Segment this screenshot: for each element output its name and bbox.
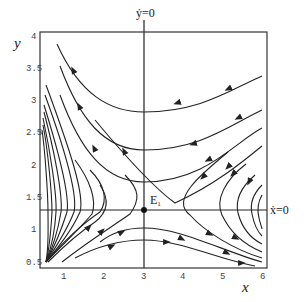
equilibrium-point — [141, 207, 147, 213]
y-axis-label: y — [12, 35, 21, 51]
svg-text:0.5: 0.5 — [26, 258, 42, 268]
y-dot-nullcline-label: ẏ=0 — [136, 6, 155, 20]
svg-text:2: 2 — [31, 161, 36, 171]
svg-text:3: 3 — [31, 96, 36, 106]
x-dot-nullcline-label: ẋ=0 — [270, 203, 289, 217]
svg-text:3.5: 3.5 — [26, 64, 42, 74]
x-axis-ticks: 1 2 3 4 5 6 — [61, 272, 265, 282]
equilibrium-label: E1 — [150, 193, 161, 208]
svg-text:1: 1 — [61, 272, 66, 282]
x-axis-label: x — [241, 279, 249, 295]
phase-portrait: 0.5 1 1.5 2 2.5 3 3.5 4 1 2 3 4 5 6 y x … — [0, 0, 306, 302]
svg-text:4: 4 — [180, 272, 185, 282]
svg-text:4: 4 — [31, 32, 36, 42]
svg-text:1: 1 — [31, 225, 36, 235]
svg-text:3: 3 — [141, 272, 146, 282]
svg-text:6: 6 — [260, 272, 265, 282]
svg-text:2: 2 — [101, 272, 106, 282]
svg-text:1.5: 1.5 — [26, 193, 42, 203]
svg-text:5: 5 — [220, 272, 225, 282]
trajectories — [42, 44, 262, 266]
svg-text:2.5: 2.5 — [26, 128, 42, 138]
